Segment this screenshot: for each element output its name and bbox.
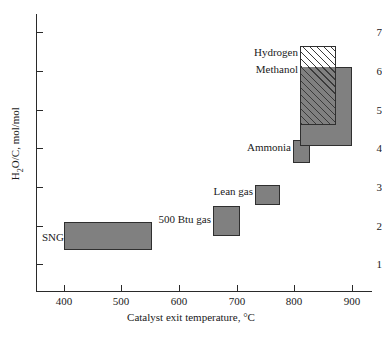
series-label-lean-gas: Lean gas [195, 186, 253, 197]
x-tick-700 [237, 285, 238, 291]
y-tick-7 [37, 32, 43, 33]
x-tick-label-400: 400 [44, 296, 84, 307]
x-tick-600 [179, 285, 180, 291]
x-tick-label-500: 500 [101, 296, 141, 307]
y-tick-label-7: 7 [358, 27, 382, 38]
y-tick-4 [37, 148, 43, 149]
y-tick-label-6: 6 [358, 66, 382, 77]
x-tick-900 [352, 285, 353, 291]
y-tick-label-4: 4 [358, 143, 382, 154]
series-label-methanol: Methanol [240, 64, 298, 75]
y-axis-title: H2O/C, mol/mol [9, 69, 24, 219]
bar-lean-gas [255, 185, 280, 205]
x-tick-label-900: 900 [332, 296, 372, 307]
y-tick-label-1: 1 [358, 259, 382, 270]
y-tick-5 [37, 110, 43, 111]
x-tick-label-600: 600 [159, 296, 199, 307]
chart-root: 7 6 5 4 3 2 1 400 500 600 700 800 900 Ca… [0, 0, 382, 338]
x-tick-800 [294, 285, 295, 291]
y-axis-title-subscript: 2 [16, 168, 25, 172]
x-tick-label-700: 700 [217, 296, 257, 307]
bar-500-btu-gas [213, 206, 240, 236]
y-tick-2 [37, 226, 43, 227]
y-axis-line [36, 14, 37, 292]
x-tick-400 [64, 285, 65, 291]
series-label-hydrogen: Hydrogen [238, 47, 298, 58]
y-tick-label-2: 2 [358, 221, 382, 232]
x-tick-500 [121, 285, 122, 291]
x-tick-label-800: 800 [274, 296, 314, 307]
bar-hydrogen-overlap [300, 67, 336, 125]
y-tick-3 [37, 187, 43, 188]
series-label-500-btu-gas: 500 Btu gas [141, 214, 211, 225]
y-tick-label-3: 3 [358, 182, 382, 193]
y-tick-6 [37, 71, 43, 72]
y-tick-1 [37, 264, 43, 265]
bar-hydrogen-upper [300, 46, 336, 67]
series-label-sng: SNG [38, 232, 64, 243]
y-tick-label-5: 5 [358, 105, 382, 116]
x-axis-line [36, 291, 372, 292]
bar-sng [64, 222, 152, 250]
x-axis-title-text: Catalyst exit temperature, °C [127, 311, 255, 323]
x-axis-title: Catalyst exit temperature, °C [0, 311, 382, 323]
series-label-ammonia: Ammonia [238, 142, 291, 153]
